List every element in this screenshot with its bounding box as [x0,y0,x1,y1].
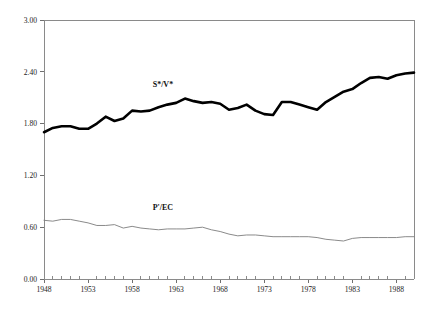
y-axis-ticks: 0.000.601.201.802.403.00 [24,16,44,284]
line-chart: 0.000.601.201.802.403.00 194819531958196… [0,0,426,310]
y-tick-label: 2.40 [24,68,37,77]
x-tick-label: 1948 [36,285,51,294]
x-axis-minor-ticks [53,276,414,280]
y-tick-label: 0.00 [24,275,37,284]
data-series-group [44,73,414,241]
x-tick-label: 1963 [169,285,184,294]
x-axis-ticks: 194819531958196319681973197819831988 [36,279,404,294]
series-label-s-v-: S*/V* [153,80,173,89]
series-line-p-ec [44,219,414,241]
y-tick-label: 1.80 [24,119,37,128]
x-tick-label: 1988 [389,285,404,294]
x-tick-label: 1953 [80,285,95,294]
series-labels-group: S*/V*P'/EC [153,80,174,212]
series-line-s-v- [44,73,414,133]
y-tick-label: 1.20 [24,171,37,180]
x-tick-label: 1978 [301,285,316,294]
chart-figure: 0.000.601.201.802.403.00 194819531958196… [0,0,426,310]
x-tick-label: 1973 [257,285,272,294]
x-tick-label: 1958 [125,285,140,294]
y-tick-label: 0.60 [24,223,37,232]
x-tick-label: 1983 [345,285,360,294]
y-tick-label: 3.00 [24,16,37,25]
series-label-p-ec: P'/EC [153,203,174,212]
x-tick-label: 1968 [213,285,228,294]
